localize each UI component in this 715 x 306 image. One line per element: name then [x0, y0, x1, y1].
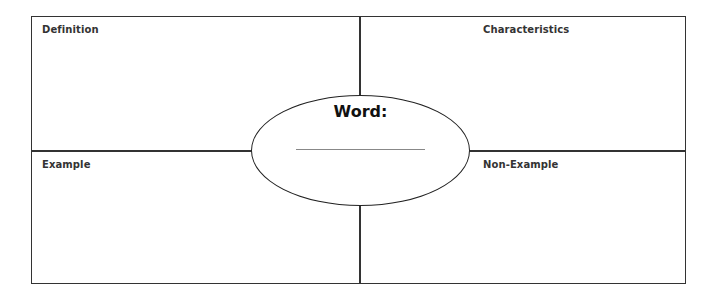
definition-label: Definition — [42, 24, 99, 35]
characteristics-label: Characteristics — [483, 24, 569, 35]
word-answer-line[interactable] — [296, 149, 425, 150]
example-label: Example — [42, 159, 91, 170]
word-label: Word: — [252, 102, 469, 121]
center-word-oval: Word: — [251, 95, 470, 206]
non-example-label: Non-Example — [483, 159, 558, 170]
